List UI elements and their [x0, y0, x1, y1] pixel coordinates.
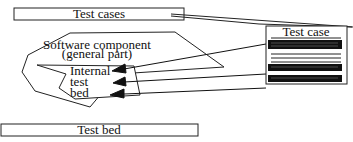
- diagram-canvas: Test cases Software component (general p…: [0, 0, 353, 142]
- test-case-bar-2: [268, 64, 342, 71]
- test-case-card: Test case: [266, 24, 347, 84]
- test-bed-label: Test bed: [77, 122, 121, 137]
- test-cases-label: Test cases: [73, 6, 125, 21]
- internal-test-bed-label-line3: bed: [70, 85, 89, 100]
- test-case-bar-1: [268, 40, 342, 49]
- test-cases-box: Test cases: [14, 6, 184, 21]
- test-bed-box: Test bed: [1, 122, 198, 137]
- test-case-title: Test case: [282, 24, 329, 39]
- test-case-bar-3: [268, 75, 342, 82]
- software-component-label-line2: (general part): [62, 46, 132, 61]
